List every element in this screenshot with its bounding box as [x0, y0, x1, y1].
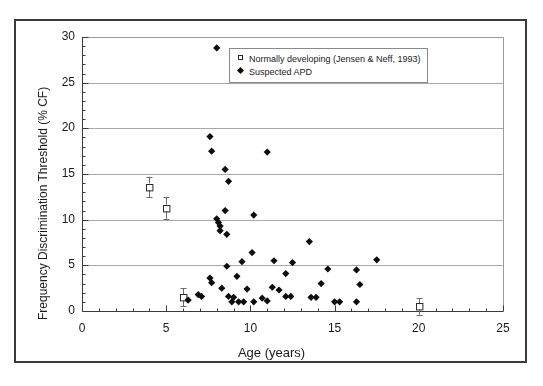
- y-tick-label: 10: [35, 212, 75, 226]
- y-tick-label: 15: [35, 166, 75, 180]
- x-axis-title: Age (years): [0, 345, 543, 360]
- legend-label-suspected-apd: Suspected APD: [249, 67, 312, 77]
- legend-item-normally-developing: Normally developing (Jensen & Neff, 1993…: [237, 52, 420, 65]
- y-tick-label: 0: [35, 303, 75, 317]
- y-tick-label: 20: [35, 120, 75, 134]
- filled-diamond-icon: [237, 67, 246, 76]
- legend-label-normally-developing: Normally developing (Jensen & Neff, 1993…: [249, 54, 420, 64]
- y-tick-label: 5: [35, 257, 75, 271]
- x-tick-label: 10: [230, 321, 270, 335]
- y-tick-label: 25: [35, 75, 75, 89]
- legend-item-suspected-apd: Suspected APD: [237, 65, 420, 78]
- x-tick-label: 20: [399, 321, 439, 335]
- chart-legend: Normally developing (Jensen & Neff, 1993…: [229, 48, 428, 83]
- y-tick-label: 30: [35, 29, 75, 43]
- x-tick-label: 25: [483, 321, 523, 335]
- x-tick-label: 0: [62, 321, 102, 335]
- x-tick-label: 15: [315, 321, 355, 335]
- open-square-icon: [237, 54, 246, 63]
- x-tick-label: 5: [146, 321, 186, 335]
